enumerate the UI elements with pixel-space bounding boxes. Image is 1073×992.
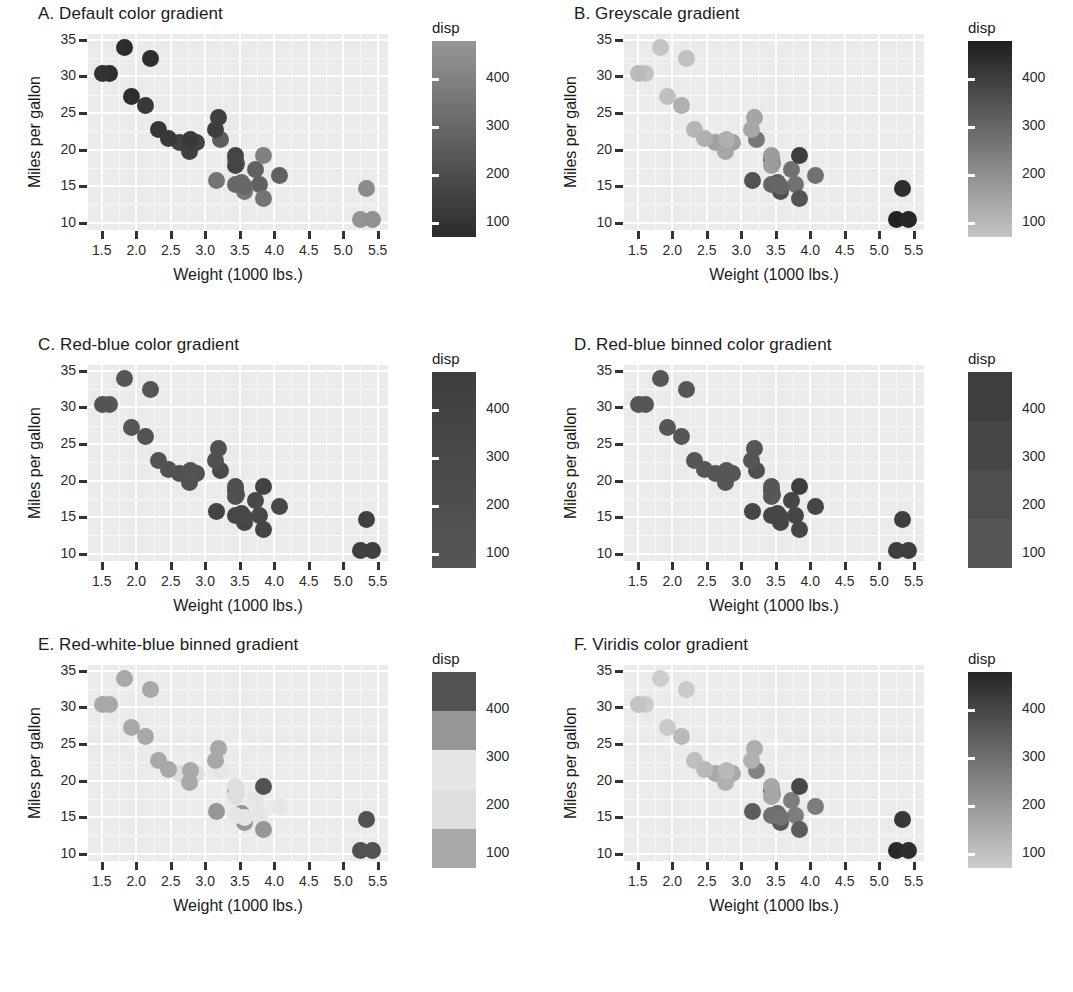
y-tick-label: 10	[42, 545, 76, 561]
legend-tick-label: 100	[486, 213, 509, 229]
legend-tick-label: 400	[1022, 700, 1045, 716]
panel-b: B. Greyscale gradient1015202530351.52.02…	[536, 0, 1073, 331]
scatter-point	[142, 681, 159, 698]
x-tick-mark	[913, 562, 916, 570]
gridline-vertical	[273, 365, 275, 561]
gridline-vertical	[775, 365, 777, 561]
gridline-vertical	[775, 34, 777, 230]
x-tick-mark	[204, 231, 207, 239]
gridline-vertical	[308, 365, 310, 561]
legend: disp100200300400	[432, 650, 542, 868]
x-tick-mark	[671, 862, 674, 870]
gridline-vertical	[844, 665, 846, 861]
y-tick-mark	[79, 39, 87, 42]
scatter-point	[791, 478, 808, 495]
gridline-vertical	[273, 34, 275, 230]
scatter-point	[160, 761, 177, 778]
x-tick-mark	[170, 562, 173, 570]
legend-tick-label: 300	[486, 748, 509, 764]
panel-title: A. Default color gradient	[38, 4, 223, 24]
y-tick-mark	[615, 853, 623, 856]
x-axis-title: Weight (1000 lbs.)	[624, 266, 924, 284]
scatter-point	[182, 131, 199, 148]
legend-tick-mark	[968, 78, 975, 81]
x-tick-mark	[809, 562, 812, 570]
y-tick-mark	[79, 670, 87, 673]
gridline-vertical	[844, 34, 846, 230]
x-tick-label: 5.5	[892, 873, 936, 889]
legend-tick-label: 100	[486, 544, 509, 560]
y-tick-label: 20	[42, 141, 76, 157]
x-axis-title: Weight (1000 lbs.)	[88, 266, 388, 284]
gridline-vertical	[204, 665, 206, 861]
scatter-point	[894, 511, 911, 528]
y-axis-title: Miles per gallon	[26, 665, 44, 861]
x-tick-mark	[844, 231, 847, 239]
scatter-point	[743, 452, 760, 469]
panel-title: F. Viridis color gradient	[574, 635, 748, 655]
plot-area	[88, 34, 388, 230]
legend-tick-label: 100	[1022, 213, 1045, 229]
x-tick-mark	[308, 862, 311, 870]
scatter-point	[791, 521, 808, 538]
scatter-point	[116, 39, 133, 56]
legend-colorbar	[968, 372, 1012, 568]
y-tick-label: 15	[42, 808, 76, 824]
gridline-vertical	[878, 365, 880, 561]
scatter-point	[807, 498, 824, 515]
x-tick-mark	[377, 562, 380, 570]
legend-tick-label: 100	[1022, 544, 1045, 560]
y-tick-mark	[79, 149, 87, 152]
y-tick-label: 20	[578, 472, 612, 488]
gridline-vertical	[637, 34, 639, 230]
legend-colorbar	[968, 41, 1012, 237]
legend-tick-mark	[968, 222, 975, 225]
scatter-point	[236, 178, 253, 195]
y-tick-mark	[615, 370, 623, 373]
legend-title: disp	[432, 19, 460, 36]
legend-tick-label: 200	[1022, 165, 1045, 181]
gridline-vertical	[671, 34, 673, 230]
y-tick-mark	[615, 75, 623, 78]
scatter-point	[358, 511, 375, 528]
gridline-vertical	[101, 665, 103, 861]
y-tick-label: 25	[578, 435, 612, 451]
x-tick-mark	[342, 231, 345, 239]
y-axis-title: Miles per gallon	[562, 365, 580, 561]
legend-tick-mark	[432, 409, 439, 412]
legend: disp100200300400	[432, 350, 542, 568]
y-tick-label: 35	[578, 31, 612, 47]
legend-tick-label: 300	[1022, 117, 1045, 133]
legend-tick-label: 200	[486, 496, 509, 512]
y-tick-label: 15	[42, 508, 76, 524]
x-tick-label: 5.5	[892, 573, 936, 589]
x-tick-mark	[878, 862, 881, 870]
y-tick-mark	[615, 39, 623, 42]
y-tick-label: 10	[42, 214, 76, 230]
x-tick-mark	[740, 231, 743, 239]
legend-tick-mark	[432, 457, 439, 460]
x-tick-mark	[809, 231, 812, 239]
scatter-point	[255, 821, 272, 838]
x-tick-mark	[308, 231, 311, 239]
legend: disp100200300400	[968, 350, 1073, 568]
gridline-vertical	[637, 365, 639, 561]
x-tick-mark	[740, 562, 743, 570]
scatter-point	[696, 461, 713, 478]
gridline-vertical	[135, 665, 137, 861]
y-tick-label: 35	[42, 662, 76, 678]
x-tick-mark	[706, 231, 709, 239]
y-tick-label: 35	[42, 362, 76, 378]
y-tick-label: 20	[42, 472, 76, 488]
legend: disp100200300400	[968, 19, 1073, 237]
x-tick-mark	[239, 862, 242, 870]
scatter-point	[678, 50, 695, 67]
gridline-vertical-minor	[896, 365, 897, 561]
scatter-point	[358, 180, 375, 197]
scatter-point	[652, 39, 669, 56]
legend-tick-mark	[968, 709, 975, 712]
y-tick-mark	[79, 185, 87, 188]
x-tick-mark	[204, 562, 207, 570]
x-tick-mark	[878, 231, 881, 239]
gridline-vertical	[878, 665, 880, 861]
